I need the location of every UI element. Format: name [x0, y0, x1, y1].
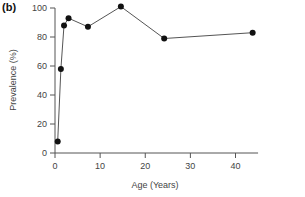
data-point-marker — [58, 66, 64, 72]
y-tick-label: 40 — [37, 90, 47, 100]
x-tick-label: 20 — [140, 161, 150, 171]
axes: 020406080100010203040 — [32, 3, 258, 171]
y-tick-label: 20 — [37, 119, 47, 129]
x-tick-label: 30 — [185, 161, 195, 171]
data-point-marker — [250, 30, 256, 36]
data-point-marker — [161, 35, 167, 41]
x-tick-label: 40 — [230, 161, 240, 171]
data-point-marker — [66, 15, 72, 21]
x-tick-label: 10 — [95, 161, 105, 171]
data-point-marker — [55, 138, 61, 144]
data-point-marker — [118, 4, 124, 10]
prevalence-chart: 020406080100010203040 — [0, 0, 305, 197]
plot-area — [55, 4, 256, 145]
data-point-marker — [61, 22, 67, 28]
data-point-marker — [85, 24, 91, 30]
x-tick-label: 0 — [52, 161, 57, 171]
y-tick-label: 0 — [42, 148, 47, 158]
y-tick-label: 100 — [32, 3, 47, 13]
y-tick-label: 80 — [37, 32, 47, 42]
y-tick-label: 60 — [37, 61, 47, 71]
